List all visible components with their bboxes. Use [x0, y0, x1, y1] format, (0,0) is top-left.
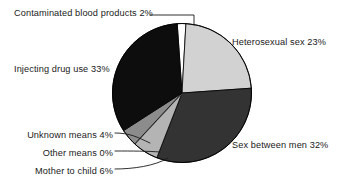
slice-label-injecting-drug-use: Injecting drug use 33% — [14, 64, 110, 75]
pie-slices-group — [112, 24, 251, 163]
slice-label-heterosexual-sex: Heterosexual sex 23% — [232, 37, 326, 48]
pie-chart-figure: Contaminated blood products 2% Heterosex… — [0, 0, 352, 187]
slice-label-mother-to-child: Mother to child 6% — [35, 166, 113, 177]
slice-label-unknown-means: Unknown means 4% — [27, 130, 113, 141]
leader-line-mother — [115, 158, 168, 169]
slice-label-sex-between-men: Sex between men 32% — [232, 140, 328, 151]
slice-label-other-means: Other means 0% — [43, 148, 113, 159]
slice-label-contaminated-blood-products: Contaminated blood products 2% — [14, 8, 153, 19]
pie-slice-heterosexual-sex — [182, 24, 251, 93]
